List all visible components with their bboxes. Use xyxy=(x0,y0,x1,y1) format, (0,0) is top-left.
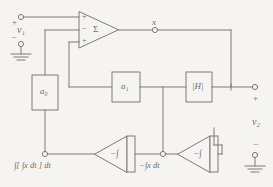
input-terminal xyxy=(18,14,23,19)
integrator-2-label: −∫ xyxy=(193,149,202,158)
node-first-integral xyxy=(160,151,165,156)
summer-input-sign-3: + xyxy=(82,37,87,45)
integrator-1-bar xyxy=(127,136,135,172)
summer-sigma-symbol: Σ xyxy=(93,25,98,34)
node-first-integral-label: −∫x dt xyxy=(139,161,160,170)
node-x xyxy=(152,27,157,32)
circuit-diagram-canvas: + v₁ − + − + Σ x a₀ a₁ |H| −∫ −∫ ∫[ ∫x d… xyxy=(0,0,273,187)
block-a0-label: a₀ xyxy=(40,87,48,96)
node-double-integral xyxy=(42,151,47,156)
summer-input-sign-2: − xyxy=(82,25,87,33)
output-terminal-plus xyxy=(252,84,257,89)
output-signal-label: v₂ xyxy=(252,117,260,127)
block-a1-label: a₁ xyxy=(121,82,129,91)
summer-input-sign-1: + xyxy=(82,13,87,21)
input-ground-terminal xyxy=(18,41,23,46)
output-terminal-minus xyxy=(252,152,257,157)
block-H-label: |H| xyxy=(192,82,203,91)
integrator-1-label: −∫ xyxy=(110,149,119,158)
output-plus-sign: + xyxy=(253,94,258,103)
node-x-label: x xyxy=(152,18,156,27)
node-double-integral-label: ∫[ ∫x dt ] dt xyxy=(14,161,51,170)
input-minus-sign: − xyxy=(11,33,16,42)
input-source-label: v₁ xyxy=(17,25,25,35)
output-minus-sign: − xyxy=(253,140,258,149)
